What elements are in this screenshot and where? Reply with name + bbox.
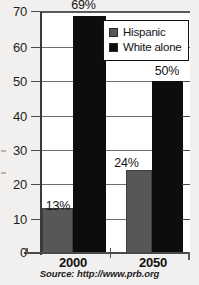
- y-tick-40: [31, 116, 40, 117]
- x-axis-right-end: [188, 252, 190, 260]
- bar-white-alone-2000: [73, 16, 106, 253]
- x-axis-line: [24, 252, 190, 254]
- y-tick-right-30: [182, 150, 190, 151]
- legend-item-hispanic: Hispanic: [109, 25, 183, 40]
- y-tick-50: [31, 81, 40, 82]
- y-tick-label-10: 10: [1, 213, 27, 226]
- bar-hispanic-2000: [42, 208, 73, 253]
- y-tick-60: [31, 47, 40, 48]
- legend-swatch-icon-hispanic: [109, 28, 118, 37]
- data-label-white-alone-2050: 50%: [146, 65, 188, 78]
- y-tick-label-60: 60: [1, 41, 27, 54]
- legend-item-white-alone: White alone: [109, 40, 183, 55]
- legend-label-hispanic: Hispanic: [123, 27, 166, 39]
- y-tick-label-20: 20: [1, 178, 27, 191]
- y-tick-0: [31, 252, 40, 253]
- x-tick-separator: [110, 248, 111, 258]
- y-tick-label-40: 40: [1, 110, 27, 123]
- x-tick-start: [26, 248, 28, 254]
- y-axis-line: [40, 12, 42, 255]
- y-tick-right-40: [182, 116, 190, 117]
- bar-chart: 70 60 50 40 30 20 10 0 13% 69% 24% 50% 2…: [0, 0, 199, 285]
- scan-artifact: [1, 172, 6, 174]
- source-caption: Source: http://www.prb.org: [0, 268, 199, 279]
- y-tick-70: [31, 11, 40, 12]
- y-tick-label-30: 30: [1, 144, 27, 157]
- legend-label-white-alone: White alone: [123, 42, 182, 54]
- data-label-hispanic-2050: 24%: [110, 157, 143, 170]
- bar-hispanic-2050: [126, 170, 152, 253]
- y-tick-30: [31, 150, 40, 151]
- y-tick-10: [31, 219, 40, 220]
- y-tick-label-0: 0: [1, 246, 27, 259]
- legend: Hispanic White alone: [103, 20, 189, 61]
- y-tick-20: [31, 184, 40, 185]
- y-tick-label-50: 50: [1, 75, 27, 88]
- y-tick-label-70: 70: [1, 5, 27, 18]
- bar-white-alone-2050: [152, 81, 183, 253]
- data-label-hispanic-2000: 13%: [40, 200, 76, 213]
- legend-swatch-icon-white-alone: [109, 43, 118, 52]
- y-tick-right-10: [182, 219, 190, 220]
- data-label-white-alone-2000: 69%: [62, 0, 105, 12]
- y-tick-right-50: [182, 81, 190, 82]
- y-tick-right-20: [182, 184, 190, 185]
